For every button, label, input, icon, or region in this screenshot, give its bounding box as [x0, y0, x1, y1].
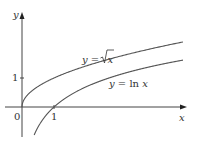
function-graph: y x 0 1 1 y = x y = ln x	[0, 0, 199, 143]
y-axis-label: y	[12, 9, 19, 20]
x-axis-label: x	[179, 112, 185, 123]
svg-text:y = ln x: y = ln x	[108, 78, 148, 89]
x-axis-arrow-icon	[180, 105, 187, 110]
sqrt-curve	[22, 42, 183, 107]
svg-text:y =: y =	[81, 54, 99, 65]
ln-label-var: x	[142, 78, 148, 89]
sqrt-label-var: x	[108, 54, 114, 65]
ln-curve	[34, 60, 183, 135]
origin-label: 0	[14, 111, 20, 122]
sqrt-label-text: y =	[81, 54, 99, 65]
y-axis-arrow-icon	[20, 12, 25, 19]
ln-label-text: = ln	[115, 78, 143, 89]
sqrt-annotation: y = x	[81, 50, 114, 65]
ln-annotation: y = ln x	[108, 78, 148, 89]
x-tick-label-1: 1	[51, 111, 57, 122]
y-tick-label-1: 1	[12, 72, 18, 83]
